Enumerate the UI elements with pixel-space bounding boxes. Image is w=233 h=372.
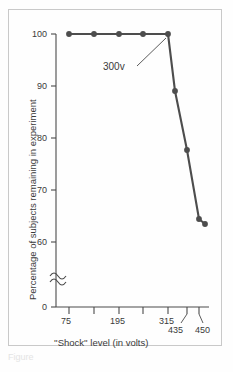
data-point bbox=[116, 31, 122, 37]
x-tick-label-450: 450 bbox=[195, 325, 210, 335]
y-tick-label-100: 100 bbox=[17, 30, 47, 39]
y-axis-ticks bbox=[51, 34, 56, 307]
y-axis-title: Percentage of subjects remaining in expe… bbox=[27, 99, 38, 300]
data-point bbox=[202, 221, 208, 227]
data-point bbox=[196, 216, 202, 222]
data-point bbox=[172, 88, 178, 94]
x-tick-label-195: 195 bbox=[110, 316, 125, 326]
figure-frame: 100 90 80 70 60 0 Percentage of subjects… bbox=[8, 9, 222, 346]
x-tick-label-75: 75 bbox=[61, 316, 71, 326]
annotation-300v: 300v bbox=[103, 61, 125, 72]
x-axis-ticks bbox=[69, 307, 199, 314]
figure-page: 100 90 80 70 60 0 Percentage of subjects… bbox=[0, 0, 233, 372]
y-tick-label-90: 90 bbox=[17, 82, 47, 91]
x-axis-title: ''Shock'' level (in volts) bbox=[54, 337, 148, 348]
data-point bbox=[66, 31, 72, 37]
annotation-leader-line bbox=[137, 38, 166, 66]
data-series-line bbox=[69, 34, 205, 224]
figure-caption: Figure bbox=[8, 352, 34, 362]
data-point bbox=[184, 147, 190, 153]
data-point bbox=[140, 31, 146, 37]
data-point bbox=[165, 31, 171, 37]
y-axis-break-icon bbox=[50, 273, 66, 285]
x-tick-label-435: 435 bbox=[168, 325, 183, 335]
x-tick-leader-lines bbox=[181, 314, 203, 323]
data-point-markers bbox=[66, 31, 208, 227]
y-tick-label-0: 0 bbox=[17, 303, 47, 312]
data-point bbox=[91, 31, 97, 37]
